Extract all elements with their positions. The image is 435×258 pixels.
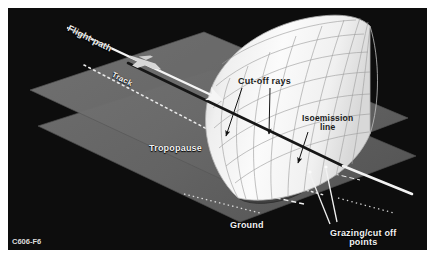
diagram-scene: Flight path Track Cut-off rays Isoemissi…	[8, 8, 427, 250]
figure-container: Flight path Track Cut-off rays Isoemissi…	[0, 0, 435, 258]
diagram-svg	[8, 8, 427, 250]
diagram-plate: Flight path Track Cut-off rays Isoemissi…	[8, 8, 427, 250]
